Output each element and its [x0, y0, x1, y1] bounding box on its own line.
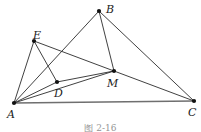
- vertex-label-e: E: [33, 30, 41, 41]
- vertex-label-m: M: [107, 78, 118, 89]
- vertex-point-m: [112, 69, 116, 73]
- figure-caption: 图 2-16: [0, 124, 201, 132]
- segment-BM: [99, 11, 114, 71]
- vertex-label-b: B: [106, 4, 114, 15]
- vertex-label-d: D: [54, 88, 63, 99]
- figure-page: ABCDEM 图 2-16: [0, 0, 201, 132]
- vertex-point-d: [55, 80, 59, 84]
- vertex-label-c: C: [188, 107, 196, 118]
- vertex-point-a: [12, 101, 16, 105]
- geometry-diagram: [0, 0, 201, 132]
- segment-AD: [14, 82, 57, 103]
- vertex-point-c: [192, 99, 196, 103]
- segment-AE: [14, 41, 34, 103]
- segment-DE: [34, 41, 57, 82]
- vertex-point-b: [97, 9, 101, 13]
- vertex-label-a: A: [7, 109, 15, 120]
- segment-AC: [14, 101, 194, 103]
- segment-layer: [14, 11, 194, 103]
